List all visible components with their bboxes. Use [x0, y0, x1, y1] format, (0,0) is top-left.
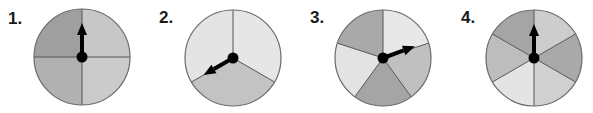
spinner-section [82, 57, 130, 105]
spinner-hub [228, 53, 239, 64]
spinner-2 [185, 10, 281, 106]
spinner-hub [529, 53, 540, 64]
spinners-canvas [0, 0, 593, 113]
spinner-section [34, 57, 82, 105]
spinner-section [34, 9, 82, 57]
spinner-hub [77, 52, 88, 63]
spinner-section [82, 9, 130, 57]
spinner-4 [486, 10, 582, 106]
spinner-3 [335, 10, 431, 106]
spinner-1 [34, 9, 130, 105]
spinner-hub [378, 53, 389, 64]
